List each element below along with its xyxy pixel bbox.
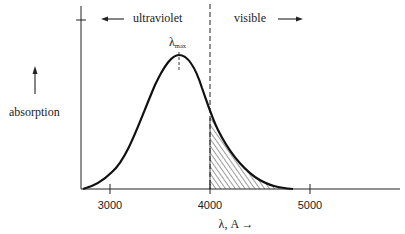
absorption-spectrum-chart: ultraviolet visible λmax absorption 3000… bbox=[0, 0, 405, 234]
arrow-right-head-icon bbox=[296, 17, 303, 22]
x-tick-label-3000: 3000 bbox=[98, 199, 122, 211]
lambda-max-subscript: max bbox=[175, 42, 187, 49]
arrow-left-head-icon bbox=[101, 17, 108, 22]
y-axis-label: absorption bbox=[9, 105, 60, 119]
arrow-up-head-icon bbox=[33, 66, 38, 74]
absorption-curve bbox=[83, 55, 293, 189]
visible-label: visible bbox=[234, 11, 266, 25]
x-axis-label: λ, A → bbox=[219, 217, 254, 231]
ultraviolet-label: ultraviolet bbox=[133, 11, 183, 25]
x-tick-label-4000: 4000 bbox=[198, 199, 222, 211]
visible-label-group: visible bbox=[234, 11, 303, 25]
x-tick-label-5000: 5000 bbox=[298, 199, 322, 211]
lambda-max-label: λmax bbox=[169, 35, 187, 49]
ultraviolet-label-group: ultraviolet bbox=[101, 11, 183, 25]
